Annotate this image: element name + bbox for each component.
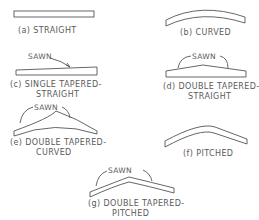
sawn-arrow-right [143, 170, 152, 181]
sawn-arrow-left [20, 107, 33, 123]
sawn-arrow-left [178, 56, 191, 68]
single-tapered-straight-beam-shape [16, 67, 97, 75]
straight-beam-shape [14, 11, 94, 17]
sawn-arrow-right [220, 56, 228, 68]
sawn-arrow-left [96, 171, 107, 186]
sawn-label: SAWN [192, 52, 216, 61]
label-double-tapered-curved-line2: CURVED [36, 148, 72, 157]
label-double-tapered-straight-line1: (d) DOUBLE TAPERED- [163, 82, 259, 91]
label-straight: (a) STRAIGHT [18, 26, 77, 35]
sawn-arrowhead [66, 63, 70, 67]
label-single-tapered-straight-line2: STRAIGHT [36, 90, 79, 99]
sawn-label: SAWN [34, 103, 58, 112]
double-tapered-curved-beam-shape [14, 111, 97, 136]
label-double-tapered-pitched-line2: PITCHED [112, 209, 149, 218]
label-single-tapered-straight-line1: (c) SINGLE TAPERED- [10, 80, 102, 89]
label-curved: (b) CURVED [180, 28, 231, 37]
sawn-label: SAWN [28, 52, 52, 61]
label-pitched: (f) PITCHED [183, 149, 233, 158]
label-double-tapered-straight-line2: STRAIGHT [188, 92, 231, 101]
label-double-tapered-pitched-line1: (g) DOUBLE TAPERED- [88, 199, 185, 208]
double-tapered-pitched-beam-shape [90, 177, 174, 197]
pitched-beam-shape [165, 126, 247, 147]
label-double-tapered-curved-line1: (e) DOUBLE TAPERED- [10, 138, 106, 147]
sawn-label: SAWN [108, 166, 132, 175]
curved-beam-shape [166, 10, 245, 26]
